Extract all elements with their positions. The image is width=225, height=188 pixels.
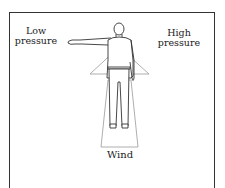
wind-trapezoid [101, 80, 138, 147]
head [114, 23, 124, 35]
legs [109, 69, 129, 126]
person-figure-illustration [0, 0, 225, 188]
pointing-arm [68, 38, 111, 45]
